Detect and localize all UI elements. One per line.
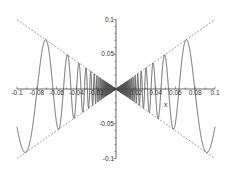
y-tick-label: 0.1: [105, 16, 114, 23]
y-tick-label: -0.1: [103, 155, 115, 162]
x-tick-label: -0.04: [69, 89, 84, 96]
x-tick-label: 0.06: [169, 89, 182, 96]
y-tick-label: 0.05: [101, 50, 114, 57]
x-tick-label: -0.02: [89, 89, 104, 96]
x-tick-label: 0.08: [189, 89, 202, 96]
x-tick-label: 0.04: [149, 89, 162, 96]
y-tick-label: -0.05: [99, 120, 114, 127]
x-tick-label: -0.06: [49, 89, 64, 96]
x-tick-label: 0.1: [210, 89, 219, 96]
x-axis-label: x: [164, 101, 168, 108]
x-tick-label: 0.02: [129, 89, 142, 96]
x-tick-label: -0.1: [11, 89, 23, 96]
plot-area: -0.1-0.08-0.06-0.04-0.020.020.040.060.08…: [0, 0, 231, 171]
x-tick-label: -0.08: [29, 89, 44, 96]
